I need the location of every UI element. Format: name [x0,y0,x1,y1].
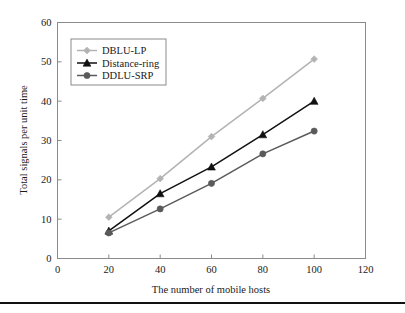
y-axis-tick-labels: 0102030405060 [41,17,52,264]
data-point-marker [259,131,267,138]
series-distance-ring [105,97,318,234]
series-ddlu-srp [106,128,318,236]
legend-entry-label: Distance-ring [102,58,160,69]
legend-entry-label: DDLU-SRP [102,70,154,81]
data-point-marker [156,190,164,197]
figure-container: 020406080100120 0102030405060 DBLU-LPDis… [0,0,405,313]
data-point-marker [260,151,266,157]
y-tick-label: 60 [41,17,52,28]
x-tick-label: 20 [104,264,115,275]
x-axis-ticks [58,255,366,259]
y-tick-label: 0 [46,253,51,264]
data-point-marker [208,180,214,186]
data-point-marker [311,128,317,134]
x-axis-title: The number of mobile hosts [152,284,270,295]
y-tick-label: 30 [41,135,52,146]
x-tick-label: 60 [206,264,217,275]
x-tick-label: 100 [306,264,322,275]
data-point-marker [208,163,216,170]
y-axis-ticks [58,23,62,259]
legend-entry-label: DBLU-LP [102,45,146,56]
y-axis-title: Total signals per unit time [18,85,29,195]
x-axis-tick-labels: 020406080100120 [55,264,374,275]
y-tick-label: 10 [41,214,52,225]
y-tick-label: 20 [41,174,52,185]
y-tick-label: 50 [41,56,52,67]
data-point-marker [310,97,318,104]
x-tick-label: 80 [258,264,269,275]
data-point-marker [157,206,163,212]
x-tick-label: 40 [155,264,166,275]
chart-legend: DBLU-LPDistance-ringDDLU-SRP [71,39,166,85]
x-tick-label: 0 [55,264,60,275]
footer-rule [0,302,405,304]
line-chart: 020406080100120 0102030405060 DBLU-LPDis… [0,0,405,313]
legend-marker-icon [84,72,90,78]
x-tick-label: 120 [358,264,374,275]
y-tick-label: 40 [41,96,52,107]
data-point-marker [106,230,112,236]
